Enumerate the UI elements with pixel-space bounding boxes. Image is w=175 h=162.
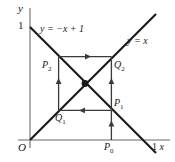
x-axis-label: x bbox=[160, 141, 164, 152]
point-label-q1: Q1 bbox=[55, 113, 66, 126]
point-label-q1-subscript: 1 bbox=[62, 118, 66, 126]
equation-label-line1: y = −x + 1 bbox=[40, 24, 84, 34]
figure-container: y 1 O 1 x y = −x + 1 y = x P2 Q2 P1 Q1 P… bbox=[0, 0, 175, 162]
fixed-point-dot bbox=[82, 80, 89, 87]
point-label-q2: Q2 bbox=[114, 60, 125, 73]
x-axis-end-label: 1 x bbox=[152, 142, 164, 152]
point-label-q2-subscript: 2 bbox=[121, 65, 125, 73]
arrowhead-p1-to-q2-up bbox=[109, 78, 115, 84]
cobweb-diagram-svg bbox=[0, 0, 175, 162]
point-label-p1-subscript: 1 bbox=[120, 103, 124, 111]
arrowhead-p2-to-q2-right bbox=[85, 54, 91, 60]
y-axis-label: y bbox=[18, 3, 23, 14]
origin-label: O bbox=[18, 142, 26, 153]
arrowhead-p0-to-p1-up bbox=[109, 121, 115, 127]
equation-label-line2: y = x bbox=[127, 36, 148, 46]
arrowhead-p1-to-q1-left bbox=[79, 108, 85, 114]
point-label-p2-subscript: 2 bbox=[48, 65, 52, 73]
point-label-p0: P0 bbox=[104, 142, 114, 155]
y-axis-tick-label-1: 1 bbox=[18, 20, 24, 31]
point-label-p1: P1 bbox=[114, 98, 124, 111]
point-label-p2: P2 bbox=[42, 60, 52, 73]
arrowhead-q1-to-p2-up bbox=[56, 78, 62, 84]
x-axis-tick-label-1: 1 bbox=[152, 141, 157, 152]
point-label-p0-subscript: 0 bbox=[110, 147, 114, 155]
